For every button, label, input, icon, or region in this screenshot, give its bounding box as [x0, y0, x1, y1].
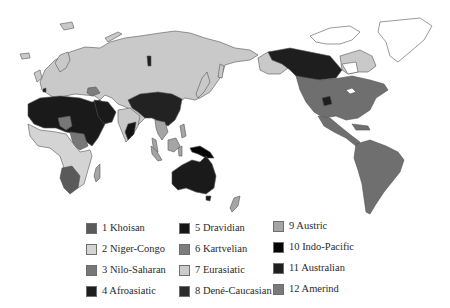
- legend-label: 1 Khoisan: [102, 221, 145, 235]
- australia-region: [172, 156, 216, 194]
- central-america-region: [318, 116, 360, 146]
- sulawesi-region: [178, 146, 182, 156]
- legend-item-kartvelian: 6 Kartvelian: [179, 242, 247, 256]
- legend-label: 12 Amerind: [289, 282, 339, 296]
- legend-item-niger-congo: 2 Niger-Congo: [86, 242, 165, 256]
- map-legend: 1 Khoisan 2 Niger-Congo 3 Nilo-Saharan 4…: [86, 221, 386, 305]
- legend-label: 10 Indo-Pacific: [289, 240, 354, 254]
- amerind-swatch: [273, 284, 284, 295]
- new-zealand-region: [230, 196, 240, 212]
- dravidian-swatch: [179, 223, 190, 234]
- legend-item-nilo-saharan: 3 Nilo-Saharan: [86, 263, 166, 277]
- australian-swatch: [273, 263, 284, 274]
- afroasiatic-swatch: [86, 286, 97, 297]
- khoisan-swatch: [86, 223, 97, 234]
- legend-label: 8 Dené-Caucasian: [195, 284, 272, 298]
- tasmania-region: [206, 196, 211, 201]
- niger-congo-swatch: [86, 244, 97, 255]
- language-family-map: [0, 0, 450, 215]
- south-america-region: [354, 140, 404, 214]
- legend-item-dravidian: 5 Dravidian: [179, 221, 245, 235]
- legend-item-indo-pacific: 10 Indo-Pacific: [273, 240, 354, 254]
- legend-label: 6 Kartvelian: [195, 242, 247, 256]
- kartvelian-swatch: [179, 244, 190, 255]
- amerind-north-region: [296, 76, 388, 120]
- philippines-region: [180, 124, 186, 138]
- legend-item-amerind: 12 Amerind: [273, 282, 339, 296]
- ket-region: [147, 56, 151, 66]
- madagascar-region: [94, 164, 100, 182]
- svalbard-region: [60, 22, 74, 30]
- hudson-bay: [342, 62, 358, 74]
- eurasiatic-swatch: [179, 265, 190, 276]
- legend-label: 3 Nilo-Saharan: [102, 263, 166, 277]
- greenland-region: [378, 18, 432, 62]
- legend-item-australian: 11 Australian: [273, 261, 345, 275]
- arctic-islands-region: [310, 26, 360, 44]
- indo-pacific-swatch: [273, 242, 284, 253]
- dene-caucasian-swatch: [179, 286, 190, 297]
- caribbean-region: [352, 124, 370, 130]
- legend-item-eurasiatic: 7 Eurasiatic: [179, 263, 245, 277]
- legend-item-austric: 9 Austric: [273, 219, 327, 233]
- legend-label: 5 Dravidian: [195, 221, 245, 235]
- na-dene-southwest-region: [322, 96, 332, 106]
- iceland-region: [20, 53, 30, 59]
- basque-region: [43, 88, 46, 92]
- legend-label: 4 Afroasiatic: [102, 284, 156, 298]
- legend-label: 2 Niger-Congo: [102, 242, 165, 256]
- austric-swatch: [273, 221, 284, 232]
- legend-label: 11 Australian: [289, 261, 345, 275]
- legend-item-afroasiatic: 4 Afroasiatic: [86, 284, 156, 298]
- legend-item-khoisan: 1 Khoisan: [86, 221, 145, 235]
- canada-arctic-region: [340, 50, 376, 74]
- legend-item-dene-caucasian: 8 Dené-Caucasian: [179, 284, 272, 298]
- nilo-saharan-swatch: [86, 265, 97, 276]
- legend-label: 9 Austric: [289, 219, 327, 233]
- new-guinea-region: [190, 146, 214, 158]
- legend-label: 7 Eurasiatic: [195, 263, 245, 277]
